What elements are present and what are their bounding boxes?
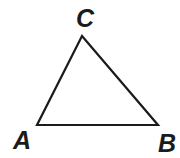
triangle-diagram: A B C [0,0,180,158]
triangle-shape [37,36,158,125]
vertex-label-b: B [158,129,176,157]
diagram-canvas: A B C [0,0,180,158]
vertex-label-a: A [12,126,31,154]
vertex-label-c: C [76,4,95,32]
